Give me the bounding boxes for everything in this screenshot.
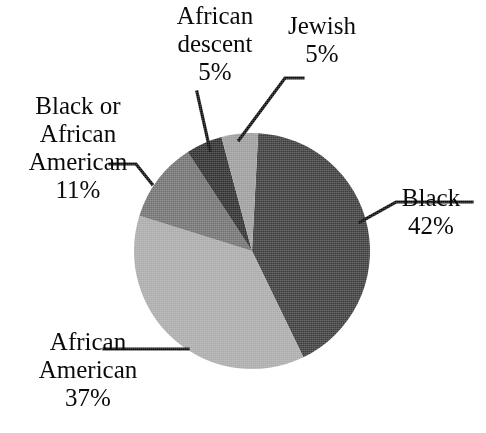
slice-label-black: Black 42% (378, 184, 484, 240)
slice-label-black-line1: Black (378, 184, 484, 212)
slice-label-black-or-african-american-line1: Black or (2, 92, 154, 120)
slice-label-african-american-line2: American (8, 356, 168, 384)
slice-label-black-or-african-american-line3: American (2, 148, 154, 176)
slice-label-black-or-african-american: Black or African American 11% (2, 92, 154, 204)
slice-label-african-american-line1: African (8, 328, 168, 356)
pie-chart-figure: African descent 5% Jewish 5% Black or Af… (0, 0, 486, 433)
slice-label-black-percent: 42% (378, 212, 484, 240)
slice-label-african-american: African American 37% (8, 328, 168, 412)
slice-label-black-or-african-american-line2: African (2, 120, 154, 148)
leader-line-african-descent (197, 92, 210, 150)
leader-line-jewish (239, 78, 303, 140)
pie-slices (134, 133, 370, 369)
slice-label-jewish-percent: 5% (256, 40, 388, 68)
slice-label-jewish-line1: Jewish (256, 12, 388, 40)
slice-label-african-american-percent: 37% (8, 384, 168, 412)
slice-label-jewish: Jewish 5% (256, 12, 388, 68)
slice-label-black-or-african-american-percent: 11% (2, 176, 154, 204)
